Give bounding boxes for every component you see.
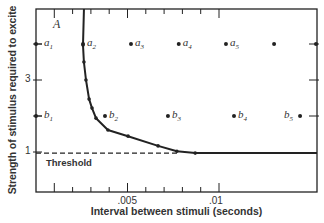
curve-marker xyxy=(90,106,94,110)
point-a3 xyxy=(129,42,133,46)
curve-marker xyxy=(94,116,98,120)
y-tick-label: 1 xyxy=(25,145,31,156)
point-label-a2: a2 xyxy=(87,36,96,51)
y-tick-label: 3 xyxy=(25,73,31,84)
point-ax xyxy=(314,42,318,46)
point-label-b3: b3 xyxy=(172,108,181,123)
point-b3 xyxy=(166,114,170,118)
x-axis-label: Interval between stimuli (seconds) xyxy=(36,205,317,217)
curve-marker xyxy=(156,144,160,148)
point-label-a1: a1 xyxy=(44,36,53,51)
point-b1 xyxy=(34,114,38,118)
point-label-b5: b5 xyxy=(284,108,293,123)
point-a1 xyxy=(34,42,38,46)
curve-marker xyxy=(82,60,86,64)
required-strength-curve xyxy=(83,9,317,153)
point-label-b1: b1 xyxy=(44,108,53,123)
curve-marker xyxy=(126,134,130,138)
point-b4 xyxy=(232,114,236,118)
point-a5 xyxy=(224,42,228,46)
point-a2 xyxy=(81,42,85,46)
point-label-b2: b2 xyxy=(109,108,118,123)
x-tick-label: .005 xyxy=(118,195,137,206)
point-label-b4: b4 xyxy=(238,108,247,123)
point-label-a4: a4 xyxy=(183,36,192,51)
curve-marker xyxy=(193,151,197,155)
data-series xyxy=(36,9,317,153)
data-points xyxy=(34,42,318,155)
threshold-annotation: Threshold xyxy=(46,157,92,168)
curve-marker xyxy=(87,97,91,101)
x-tick-label: .01 xyxy=(209,195,223,206)
panel-label: A xyxy=(53,17,60,32)
curve-marker xyxy=(84,78,88,82)
point-ax xyxy=(272,42,276,46)
point-label-a5: a5 xyxy=(230,36,239,51)
y-axis-label: Strength of stimulus required to excite xyxy=(6,5,20,195)
point-b2 xyxy=(103,114,107,118)
point-a4 xyxy=(177,42,181,46)
curve-marker xyxy=(175,149,179,153)
point-label-a3: a3 xyxy=(135,36,144,51)
curve-marker xyxy=(106,128,110,132)
point-b5 xyxy=(298,114,302,118)
